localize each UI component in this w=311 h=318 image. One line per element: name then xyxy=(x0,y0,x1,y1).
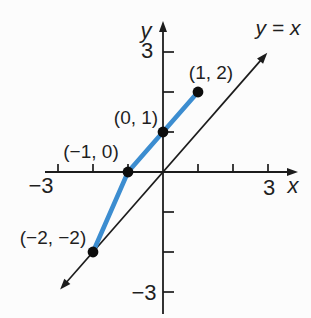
y-tick-label-3: 3 xyxy=(141,40,153,62)
data-point-dot xyxy=(158,127,169,138)
data-point-dot xyxy=(193,87,204,98)
y-axis-arrowhead xyxy=(159,21,167,32)
point-label-1-2: (1, 2) xyxy=(189,63,233,82)
x-tick-label-neg3: −3 xyxy=(28,175,53,197)
y-tick-label-neg3: −3 xyxy=(131,282,156,304)
data-point-dot xyxy=(123,167,134,178)
point-label-0-1: (0, 1) xyxy=(114,108,158,127)
line-equation-label: y = x xyxy=(256,17,301,38)
x-axis-letter: x xyxy=(288,175,299,197)
point-label-neg1-0: (−1, 0) xyxy=(63,142,118,161)
point-label-neg2-neg2: (−2, −2) xyxy=(20,228,87,247)
data-point-dot xyxy=(88,247,99,258)
coordinate-plane-figure: y x y = x 3 −3 −3 3 (1, 2) (0, 1) (−1, 0… xyxy=(0,0,311,318)
graph-canvas xyxy=(0,0,311,318)
x-tick-label-3: 3 xyxy=(263,177,275,199)
